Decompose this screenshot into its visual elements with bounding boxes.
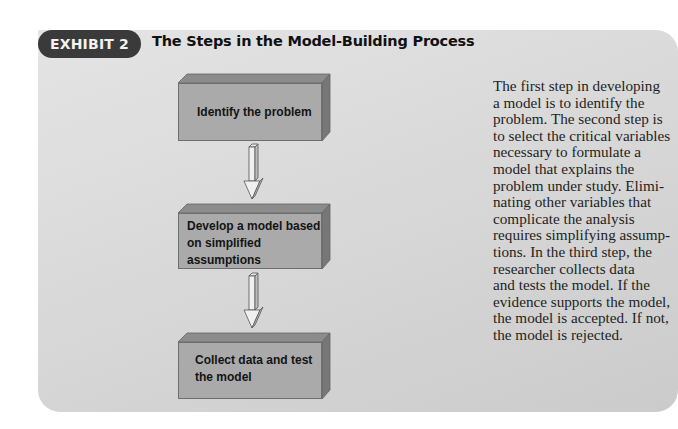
- description-paragraph: The first step in developing a model is …: [493, 78, 673, 344]
- step-box-collect-data: Collect data and test the model: [178, 333, 330, 399]
- step-label: Collect data and test the model: [178, 342, 322, 399]
- down-arrow-icon: [243, 143, 265, 201]
- step-label: Develop a model based on simplified assu…: [178, 213, 322, 269]
- step-label: Identify the problem: [178, 83, 322, 141]
- exhibit-badge: EXHIBIT 2: [38, 30, 141, 58]
- exhibit-title: The Steps in the Model-Building Process: [152, 33, 474, 49]
- step-box-identify-problem: Identify the problem: [178, 74, 330, 141]
- down-arrow-icon: [243, 272, 265, 330]
- step-box-develop-model: Develop a model based on simplified assu…: [178, 204, 330, 269]
